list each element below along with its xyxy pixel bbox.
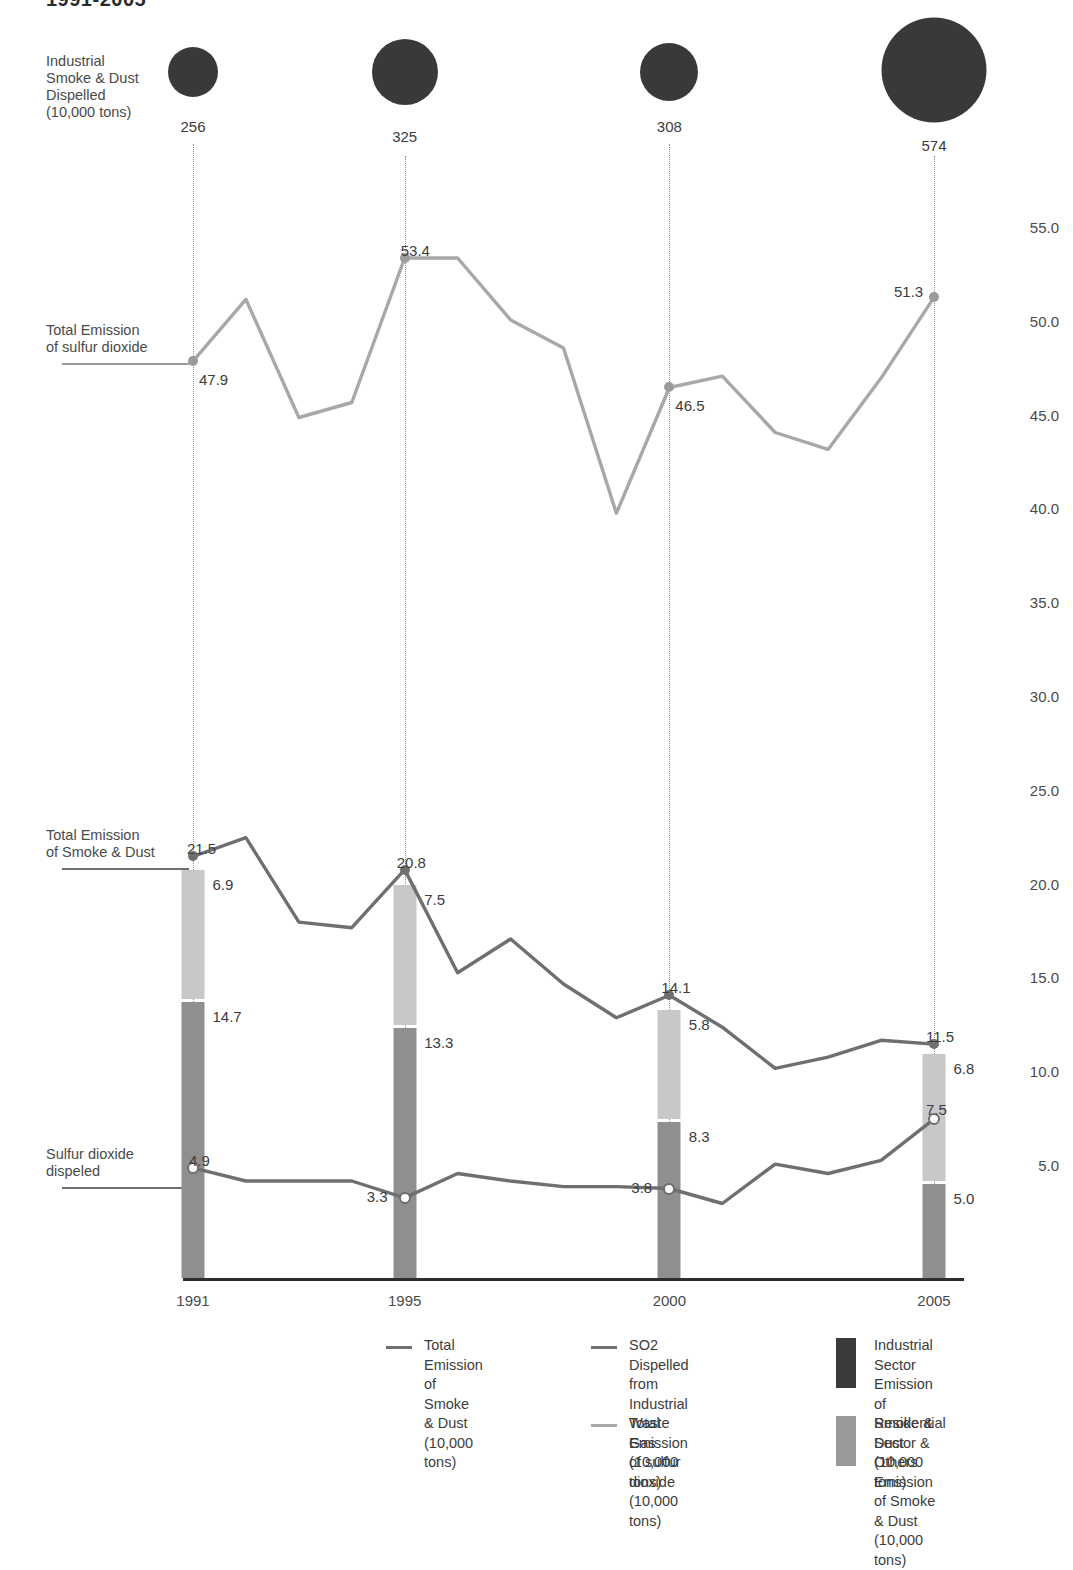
legend-swatch-residential-sector-emission — [836, 1416, 856, 1466]
value-label-so2-total-1991: 47.9 — [199, 371, 228, 388]
dust-total-line — [193, 838, 934, 1069]
value-label-so2-dispelled-1995: 3.3 — [367, 1188, 388, 1205]
value-label-so2-total-2000: 46.5 — [675, 397, 704, 414]
value-label-so2-dispelled-1991: 4.9 — [189, 1152, 210, 1169]
value-label-so2-dispelled-2000: 3.8 — [631, 1179, 652, 1196]
marker-so2-total-1991 — [188, 356, 198, 366]
legend-swatch-total-emission-smoke-dust — [386, 1346, 412, 1349]
legend-swatch-so2-dispelled-industrial-waste-gas — [591, 1346, 617, 1349]
legend-label-total-emission-smoke-dust: Total Emissionof Smoke & Dust(10,000 ton… — [424, 1336, 483, 1473]
value-label-so2-dispelled-2005: 7.5 — [926, 1101, 947, 1118]
x-axis-baseline — [183, 1278, 964, 1281]
value-label-dust-total-1995: 20.8 — [397, 854, 426, 871]
marker-so2-total-2005 — [929, 292, 939, 302]
marker-so2-dispelled-2000 — [663, 1183, 675, 1195]
value-label-dust-total-2000: 14.1 — [661, 979, 690, 996]
value-label-so2-total-2005: 51.3 — [894, 283, 923, 300]
legend-swatch-industrial-sector-emission — [836, 1338, 856, 1388]
value-label-so2-total-1995: 53.4 — [401, 242, 430, 259]
legend-swatch-total-emission-sulfur-dioxide — [591, 1424, 617, 1427]
so2-dispelled-line — [193, 1119, 934, 1203]
so2-total-line — [193, 258, 934, 513]
legend-label-residential-sector-emission: Residential Sector & OthersEmission of S… — [874, 1414, 946, 1570]
value-label-dust-total-1991: 21.5 — [187, 840, 216, 857]
value-label-dust-total-2005: 11.5 — [926, 1028, 954, 1045]
marker-so2-total-2000 — [664, 382, 674, 392]
marker-so2-dispelled-1995 — [399, 1192, 411, 1204]
legend-label-total-emission-sulfur-dioxide: Total Emissionof sulfur dioxide(10,000 t… — [629, 1414, 688, 1531]
